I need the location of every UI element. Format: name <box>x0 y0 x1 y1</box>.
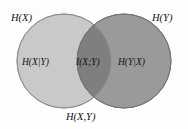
left-region-label-conditional-entropy-x-given-y: H(X|Y) <box>22 58 49 68</box>
intersection-region-label-mutual-information: I(X;Y) <box>76 58 100 68</box>
left-set-outer-label: H(X) <box>11 13 32 24</box>
entropy-venn-diagram: H(X) H(Y) H(X|Y) I(X;Y) H(Y|X) H(X,Y) <box>0 0 188 129</box>
right-set-outer-label: H(Y) <box>152 13 172 24</box>
right-region-label-conditional-entropy-y-given-x: H(Y|X) <box>118 58 145 68</box>
union-label-joint-entropy: H(X,Y) <box>66 112 95 123</box>
